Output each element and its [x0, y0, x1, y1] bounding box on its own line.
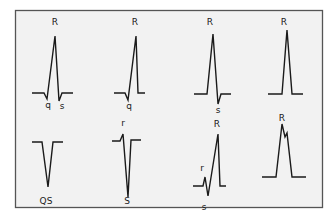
wave-label: q [45, 100, 51, 110]
wave-label: S [124, 196, 130, 206]
wave-label: s [202, 202, 207, 212]
wave-label: QS [40, 196, 53, 206]
wave-label: s [216, 105, 221, 115]
wave-label: R [279, 113, 285, 123]
wave-label: R [207, 17, 213, 27]
wave-label: R [132, 17, 138, 27]
qrs-morphology-diagram: RqsRqRsRQSrSRrsR [0, 0, 336, 219]
wave-label: s [60, 101, 65, 111]
wave-label: R [214, 119, 220, 129]
wave-label: R [281, 17, 287, 27]
wave-label: r [200, 163, 204, 173]
wave-label: R [52, 17, 58, 27]
wave-label: q [126, 101, 132, 111]
wave-label: r [121, 118, 125, 128]
